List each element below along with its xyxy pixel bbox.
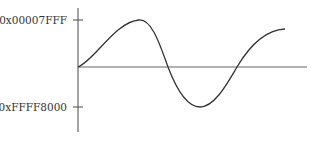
y-max-label: 0x00007FFF [0, 14, 67, 26]
waveform-figure: 0x00007FFF 0xFFFF8000 [0, 0, 319, 143]
y-min-label: 0xFFFF8000 [0, 101, 67, 113]
waveform-curve [78, 20, 285, 107]
